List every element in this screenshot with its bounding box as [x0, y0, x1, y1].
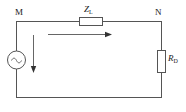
circuit-diagram: M N ZL RD — [0, 0, 186, 112]
series-impedance-box — [80, 18, 103, 26]
node-label-n: N — [155, 8, 162, 17]
load-resistor-label-subscript: D — [174, 58, 178, 64]
load-resistor-label-main: R — [168, 53, 174, 63]
load-resistor-box — [158, 51, 166, 73]
ac-voltage-source — [8, 51, 26, 69]
current-arrow-horizontal-head — [105, 32, 112, 37]
current-direction-arrow-horizontal — [48, 32, 112, 37]
load-resistor-label: RD — [168, 54, 178, 63]
current-direction-arrow-vertical — [31, 35, 36, 73]
series-impedance-label-subscript: L — [89, 9, 93, 15]
series-impedance-label: ZL — [84, 5, 93, 14]
node-label-m: M — [15, 8, 23, 17]
current-arrow-vertical-head — [31, 66, 36, 73]
